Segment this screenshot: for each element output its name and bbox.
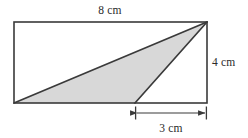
bottom-base-label: 3 cm xyxy=(159,122,182,134)
right-height-label: 4 cm xyxy=(212,56,235,68)
top-width-label: 8 cm xyxy=(98,4,121,16)
figure-canvas: 8 cm 4 cm 3 cm xyxy=(0,0,248,138)
geometry-figure: 8 cm 4 cm 3 cm xyxy=(0,0,248,138)
